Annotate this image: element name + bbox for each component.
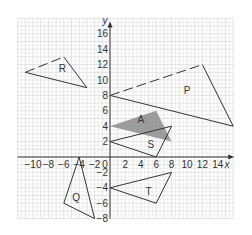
y-axis-label: y bbox=[102, 15, 109, 26]
y-tick-label: −4 bbox=[97, 182, 109, 193]
y-tick-label: 8 bbox=[102, 90, 108, 101]
shape-label-r: R bbox=[59, 63, 66, 74]
x-tick-label: 8 bbox=[169, 159, 175, 170]
x-tick-label: 6 bbox=[153, 159, 159, 170]
shape-label-a: A bbox=[137, 114, 144, 125]
shape-label-p: P bbox=[184, 85, 191, 96]
y-tick-label: −2 bbox=[97, 167, 109, 178]
shape-label-t: T bbox=[145, 186, 151, 197]
shape-label-s: S bbox=[147, 139, 154, 150]
shape-label-q: Q bbox=[72, 192, 80, 203]
y-tick-label: −6 bbox=[97, 198, 109, 209]
y-tick-label: 10 bbox=[97, 75, 109, 86]
x-tick-label: 2 bbox=[123, 159, 129, 170]
x-tick-label: 12 bbox=[197, 159, 209, 170]
y-tick-label: 6 bbox=[102, 105, 108, 116]
y-tick-label: −8 bbox=[97, 213, 109, 224]
x-tick-label: 10 bbox=[181, 159, 193, 170]
y-tick-label: 4 bbox=[102, 121, 108, 132]
x-axis-label: x bbox=[224, 159, 231, 170]
y-tick-label: 2 bbox=[102, 136, 108, 147]
y-tick-label: 14 bbox=[97, 44, 109, 55]
x-tick-label: −10 bbox=[25, 159, 42, 170]
coordinate-grid-diagram: x y 0 −10−8−6−4−22468101214161412108642−… bbox=[0, 0, 252, 235]
y-tick-label: 16 bbox=[97, 28, 109, 39]
x-tick-label: −8 bbox=[43, 159, 55, 170]
x-tick-label: 14 bbox=[212, 159, 224, 170]
x-tick-label: 4 bbox=[138, 159, 144, 170]
x-tick-label: −6 bbox=[58, 159, 70, 170]
y-tick-label: 12 bbox=[97, 59, 109, 70]
